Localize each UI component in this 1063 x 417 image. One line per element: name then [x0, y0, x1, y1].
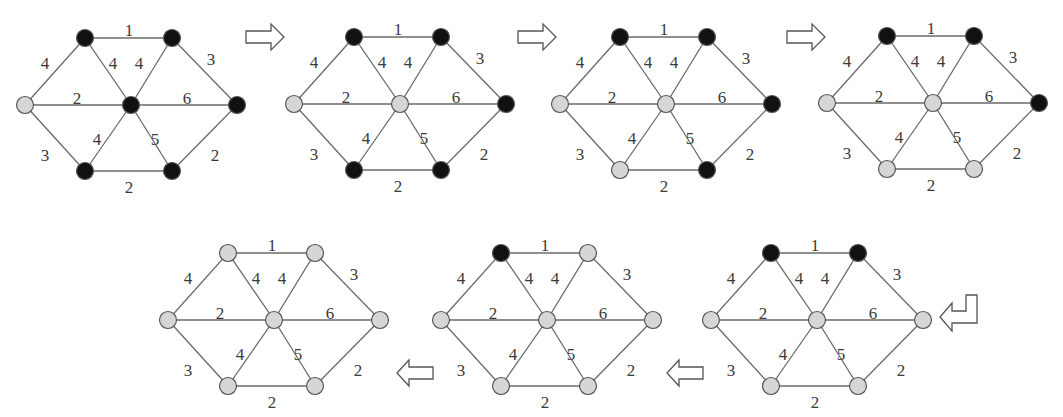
- visited-node-L: [703, 312, 720, 329]
- edge-TR-R: [588, 253, 653, 320]
- edge-weight-label: 2: [811, 393, 820, 412]
- edge-weight-label: 3: [893, 265, 902, 284]
- edge-weight-label: 2: [541, 393, 550, 412]
- edge-weight-label: 1: [660, 20, 669, 39]
- edge-weight-label: 1: [541, 236, 550, 255]
- edge-weight-label: 4: [41, 54, 50, 73]
- graph-step-1: 144432634522: [17, 21, 246, 197]
- edge-weight-label: 4: [252, 269, 261, 288]
- edge-TR-R: [858, 253, 923, 320]
- edge-weight-label: 3: [207, 50, 216, 69]
- edge-weight-label: 2: [927, 176, 936, 195]
- visited-node-L: [552, 96, 569, 113]
- unvisited-node-R: [229, 97, 246, 114]
- edge-weight-label: 6: [183, 89, 192, 108]
- graph-step-6: 144432634522: [433, 236, 662, 412]
- edge-weight-label: 3: [41, 146, 50, 165]
- visited-node-L: [286, 96, 303, 113]
- edge-weight-label: 3: [843, 144, 852, 163]
- edge-TR-R: [441, 37, 506, 104]
- visited-node-L: [160, 312, 177, 329]
- unvisited-node-TL: [77, 30, 94, 47]
- arrow-left-1-icon: [667, 360, 703, 386]
- visited-node-C: [809, 312, 826, 329]
- graph-step-3: 144432634522: [552, 20, 781, 196]
- unvisited-node-C: [123, 97, 140, 114]
- visited-node-C: [925, 95, 942, 112]
- visited-node-BL: [763, 378, 780, 395]
- edge-weight-label: 2: [480, 145, 489, 164]
- edge-weight-label: 4: [843, 52, 852, 71]
- edge-weight-label: 2: [608, 88, 617, 107]
- edge-weight-label: 2: [342, 88, 351, 107]
- edge-weight-label: 4: [525, 269, 534, 288]
- edge-weight-label: 4: [628, 129, 637, 148]
- edge-R-BR: [315, 320, 380, 386]
- unvisited-node-TL: [612, 29, 629, 46]
- graph-step-4: 144432634522: [819, 19, 1048, 195]
- visited-node-TR: [580, 245, 597, 262]
- unvisited-node-R: [1031, 95, 1048, 112]
- arrow-down-left-icon: [940, 295, 977, 331]
- visited-node-C: [266, 312, 283, 329]
- edge-weight-label: 3: [1009, 48, 1018, 67]
- visited-node-R: [372, 312, 389, 329]
- edge-weight-label: 6: [326, 304, 335, 323]
- edge-weight-label: 2: [354, 361, 363, 380]
- visited-node-TL: [220, 245, 237, 262]
- edge-weight-label: 6: [869, 304, 878, 323]
- edge-weight-label: 2: [627, 361, 636, 380]
- edge-weight-label: 3: [742, 49, 751, 68]
- edge-weight-label: 2: [394, 177, 403, 196]
- unvisited-node-R: [498, 96, 515, 113]
- edge-weight-label: 6: [985, 87, 994, 106]
- edge-L-BL: [25, 105, 85, 171]
- edge-L-BL: [560, 104, 620, 170]
- edge-weight-label: 3: [727, 361, 736, 380]
- edge-weight-label: 3: [457, 361, 466, 380]
- unvisited-node-TR: [850, 245, 867, 262]
- unvisited-node-BL: [77, 163, 94, 180]
- edge-R-BR: [858, 320, 923, 386]
- edge-TR-R: [315, 253, 380, 320]
- edge-weight-label: 4: [362, 129, 371, 148]
- edge-weight-label: 4: [795, 269, 804, 288]
- unvisited-node-TR: [699, 29, 716, 46]
- visited-node-R: [645, 312, 662, 329]
- edge-weight-label: 5: [837, 345, 846, 364]
- visited-node-BL: [493, 378, 510, 395]
- edge-weight-label: 4: [895, 128, 904, 147]
- edge-weight-label: 4: [727, 269, 736, 288]
- visited-node-BR: [966, 161, 983, 178]
- edge-L-BL: [441, 320, 501, 386]
- visited-node-L: [17, 97, 34, 114]
- edge-weight-label: 4: [135, 54, 144, 73]
- edge-weight-label: 3: [310, 145, 319, 164]
- visited-node-C: [539, 312, 556, 329]
- edge-weight-label: 1: [394, 20, 403, 39]
- edge-weight-label: 3: [623, 265, 632, 284]
- unvisited-node-TL: [763, 245, 780, 262]
- edge-weight-label: 4: [509, 345, 518, 364]
- edge-weight-label: 4: [236, 345, 245, 364]
- unvisited-node-BR: [699, 162, 716, 179]
- graph-step-5: 144432634522: [703, 236, 932, 412]
- edge-TR-R: [974, 36, 1039, 103]
- edge-weight-label: 6: [599, 304, 608, 323]
- edge-weight-label: 2: [216, 304, 225, 323]
- arrow-left-2-icon: [397, 360, 433, 386]
- visited-node-L: [819, 95, 836, 112]
- edge-TR-R: [172, 38, 237, 105]
- edge-weight-label: 4: [821, 269, 830, 288]
- edge-weight-label: 4: [404, 53, 413, 72]
- edge-L-BL: [294, 104, 354, 170]
- graph-sequence-svg: 1444326345221444326345221444326345221444…: [0, 0, 1063, 417]
- edge-weight-label: 1: [927, 19, 936, 38]
- edge-R-BR: [172, 105, 237, 171]
- visited-node-BL: [879, 161, 896, 178]
- edge-R-BR: [974, 103, 1039, 169]
- visited-node-L: [433, 312, 450, 329]
- edge-L-BL: [827, 103, 887, 169]
- edge-R-BR: [707, 104, 772, 170]
- edge-weight-label: 4: [911, 52, 920, 71]
